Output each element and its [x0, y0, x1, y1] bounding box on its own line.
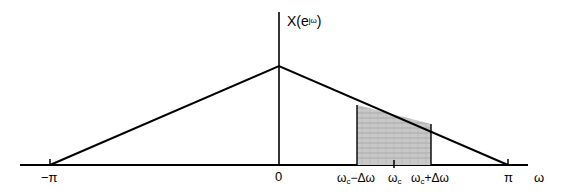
- axis-label-wc-plus-delta: ωc+Δω: [411, 172, 449, 186]
- axis-label-origin: 0: [275, 170, 282, 183]
- plot-title-exponent: jω: [309, 16, 317, 25]
- wc-plus-delta: +Δω: [424, 171, 448, 185]
- wc-minus-omega: ω: [337, 171, 346, 185]
- axis-label-wc: ωc: [388, 172, 401, 186]
- wc-plus-omega: ω: [411, 171, 420, 185]
- spectrum-plot: [0, 0, 561, 195]
- plot-title-paren: ): [317, 13, 322, 29]
- axis-label-neg-pi: −π: [41, 171, 58, 184]
- axis-name-omega: ω: [534, 171, 544, 184]
- plot-title-text: X(e: [287, 13, 309, 29]
- plot-title: X(ejω): [287, 14, 322, 28]
- wc-subscript: c: [397, 177, 401, 186]
- wc-omega: ω: [388, 171, 397, 185]
- spectrum-figure: X(ejω) −π 0 ωc−Δω ωc ωc+Δω π ω: [0, 0, 561, 195]
- axis-label-wc-minus-delta: ωc−Δω: [337, 172, 375, 186]
- wc-minus-delta: −Δω: [350, 171, 374, 185]
- axis-label-pi: π: [504, 171, 513, 184]
